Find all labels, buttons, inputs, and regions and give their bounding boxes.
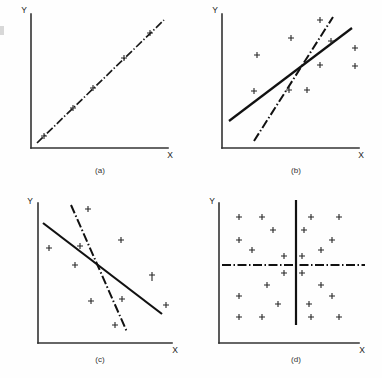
panel-c: Y X (c) — [0, 189, 191, 378]
regression-line-y-on-x-c — [43, 223, 162, 314]
regression-line-y-on-x-b — [229, 28, 352, 121]
panel-d: Y X — [191, 189, 382, 378]
figure-root: Y X (a) Y X — [0, 0, 382, 378]
regression-line-x-on-y-b — [254, 17, 333, 141]
caption-d: (d) — [291, 355, 301, 364]
plot-lines-a — [37, 20, 164, 143]
y-axis-label-a: Y — [21, 5, 27, 15]
data-markers-b — [251, 17, 358, 94]
axes-b — [222, 14, 359, 148]
axes-d — [219, 203, 359, 343]
caption-c: (c) — [95, 355, 105, 364]
panel-b: Y X (b) — [191, 0, 382, 189]
regression-line-x-on-y-c — [71, 205, 127, 332]
x-axis-label-b: X — [358, 150, 364, 160]
plot-lines-c — [43, 205, 162, 332]
y-axis-label-c: Y — [27, 196, 33, 206]
x-axis-label-d: X — [359, 345, 365, 355]
y-axis-label-d: Y — [209, 196, 215, 206]
regression-line-a — [37, 20, 164, 143]
panel-a: Y X (a) — [0, 0, 191, 189]
data-markers-c — [46, 206, 169, 328]
x-axis-label-a: X — [167, 150, 173, 160]
caption-a: (a) — [95, 166, 105, 175]
plot-lines-d — [222, 200, 365, 325]
caption-b: (b) — [291, 166, 301, 175]
y-axis-label-b: Y — [212, 5, 218, 15]
x-axis-label-c: X — [172, 345, 178, 355]
data-markers-d — [236, 214, 342, 320]
